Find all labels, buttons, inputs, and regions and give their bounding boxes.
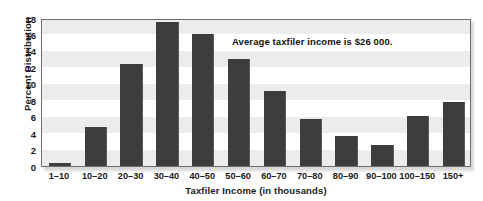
y-tick-label: 16	[8, 30, 36, 41]
x-tick-label: 150+	[427, 170, 479, 183]
y-tick-label: 6	[8, 112, 36, 123]
y-tick-label: 10	[8, 79, 36, 90]
bar	[156, 22, 178, 166]
cropped-caption-remnant	[0, 0, 483, 7]
x-axis-label: Taxfiler Income (in thousands)	[41, 185, 471, 196]
chart-figure: Percent Distribution 024681012141618 Ave…	[0, 0, 483, 201]
bar	[407, 116, 429, 166]
bar	[443, 102, 465, 166]
average-income-annotation: Average taxfiler income is $26 000.	[232, 36, 393, 47]
y-tick-label: 14	[8, 46, 36, 57]
y-tick-label: 12	[8, 63, 36, 74]
bar	[264, 91, 286, 166]
bar	[85, 127, 107, 166]
y-tick-label: 2	[8, 145, 36, 156]
bar	[300, 119, 322, 166]
bar	[49, 163, 71, 166]
bar	[335, 136, 357, 166]
bar	[120, 64, 142, 166]
bar	[371, 145, 393, 166]
y-tick-label: 4	[8, 129, 36, 140]
bar	[192, 34, 214, 166]
x-axis-ticks: 1–1010–2020–3030–4040–5050–6060–7070–808…	[41, 170, 471, 183]
y-tick-label: 0	[8, 162, 36, 173]
y-tick-label: 18	[8, 14, 36, 25]
bar	[228, 59, 250, 166]
y-axis-ticks: 024681012141618	[8, 14, 36, 170]
y-tick-label: 8	[8, 96, 36, 107]
